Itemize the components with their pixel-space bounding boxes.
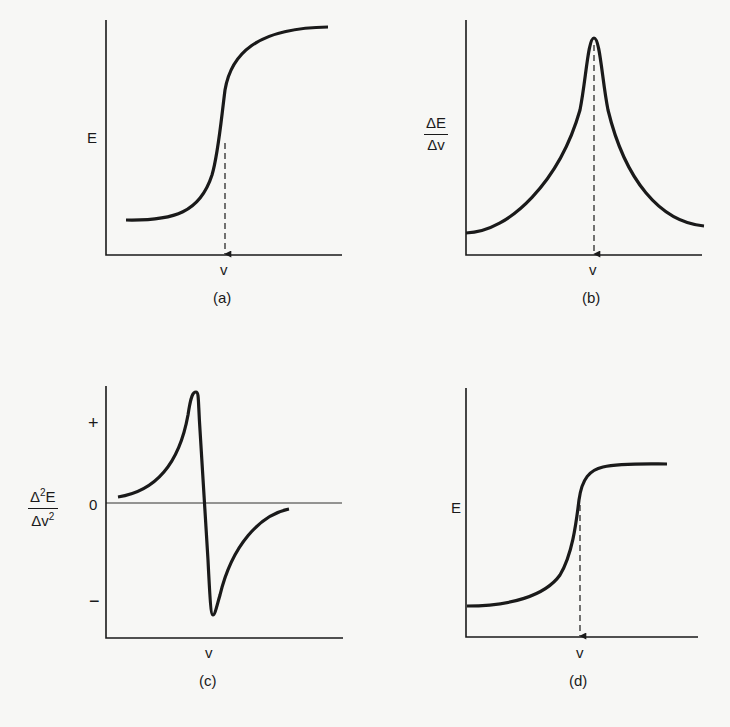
panel-a-curve bbox=[126, 27, 328, 220]
panel-c-xlabel: v bbox=[205, 645, 213, 660]
panel-d-caption: (d) bbox=[569, 673, 587, 688]
panel-c-axes bbox=[106, 386, 343, 638]
panel-d-xlabel: v bbox=[576, 645, 584, 660]
panel-a bbox=[106, 20, 342, 255]
panel-b-xlabel: v bbox=[589, 262, 597, 277]
panel-c-ylabel: Δ2E Δv2 bbox=[28, 487, 58, 529]
panel-a-xlabel: v bbox=[220, 262, 228, 277]
panel-c bbox=[106, 386, 343, 638]
panel-d-ylabel: E bbox=[451, 500, 461, 515]
panel-c-tick-plus: + bbox=[88, 414, 99, 432]
panel-d bbox=[466, 388, 698, 637]
panel-c-tick-minus: − bbox=[89, 592, 100, 610]
panel-a-ylabel: E bbox=[87, 130, 97, 145]
panel-a-caption: (a) bbox=[213, 290, 231, 305]
panel-b-ylabel: ΔE Δv bbox=[424, 115, 448, 153]
panel-c-tick-zero: 0 bbox=[89, 497, 97, 512]
panel-d-axes bbox=[466, 388, 698, 637]
panel-b-axes bbox=[466, 20, 702, 255]
panel-b-curve bbox=[466, 38, 704, 233]
panel-c-ylabel-denominator: Δv2 bbox=[28, 509, 58, 530]
panel-b-ylabel-numerator: ΔE bbox=[424, 115, 448, 135]
figure-canvas bbox=[0, 0, 730, 727]
panel-b-caption: (b) bbox=[582, 290, 600, 305]
panel-b bbox=[466, 20, 704, 255]
panel-c-caption: (c) bbox=[199, 673, 217, 688]
panel-c-curve bbox=[118, 392, 289, 615]
panel-b-ylabel-denominator: Δv bbox=[424, 135, 448, 154]
panel-d-curve bbox=[467, 464, 667, 606]
panel-c-ylabel-numerator: Δ2E bbox=[28, 487, 58, 509]
